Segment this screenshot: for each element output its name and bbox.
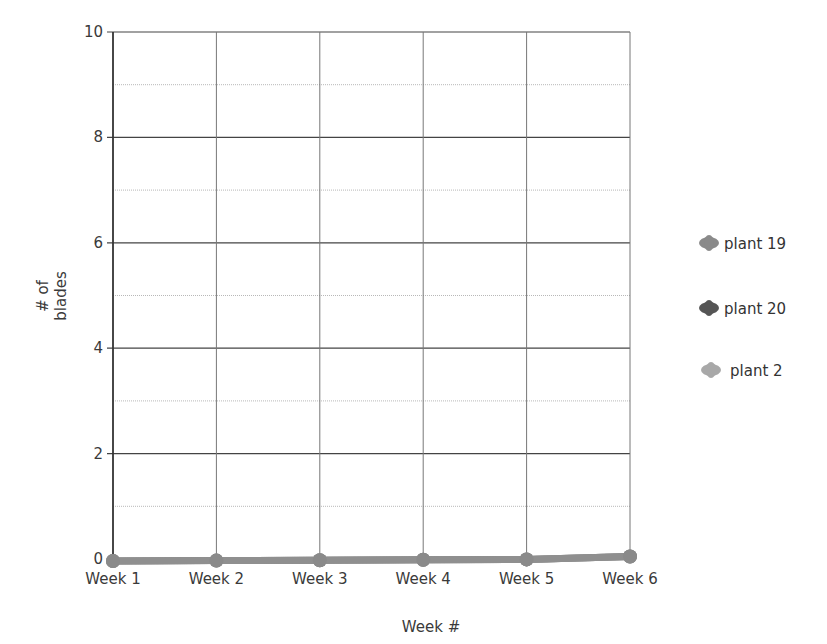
line-chart: 0246810 Week 1Week 2Week 3Week 4Week 5We… (0, 0, 827, 644)
x-tick-label: Week 4 (395, 570, 450, 588)
legend-marker-icon (704, 235, 714, 251)
y-axis-ticks: 0246810 (84, 23, 103, 568)
y-tick-label: 0 (93, 550, 103, 568)
legend-label: plant 20 (724, 300, 786, 318)
data-point-marker (520, 552, 534, 566)
x-tick-label: Week 3 (292, 570, 347, 588)
data-point-marker (416, 553, 430, 567)
y-tick-label: 10 (84, 23, 103, 41)
legend-label: plant 2 (730, 362, 783, 380)
legend-label: plant 19 (724, 235, 786, 253)
legend-item: plant 19 (699, 235, 786, 253)
x-tick-label: Week 2 (189, 570, 244, 588)
x-axis-label: Week # (402, 618, 460, 636)
legend-marker-icon (704, 300, 714, 316)
series-line (113, 557, 630, 562)
y-tick-label: 8 (93, 128, 103, 146)
grid (107, 32, 630, 559)
x-axis-ticks: Week 1Week 2Week 3Week 4Week 5Week 6 (85, 570, 657, 588)
data-point-marker (106, 554, 120, 568)
x-tick-label: Week 5 (499, 570, 554, 588)
legend-item: plant 2 (701, 362, 783, 380)
y-axis-label-line-2: blades (52, 271, 70, 321)
y-axis-label-line-1: # of (34, 279, 52, 312)
data-series (106, 550, 637, 569)
x-tick-label: Week 6 (602, 570, 657, 588)
legend-item: plant 20 (699, 300, 786, 318)
data-point-marker (623, 550, 637, 564)
y-tick-label: 4 (93, 339, 103, 357)
legend: plant 19plant 20plant 2 (699, 235, 786, 380)
y-axis-label: # of blades (34, 271, 70, 321)
data-point-marker (209, 554, 223, 568)
y-tick-label: 2 (93, 445, 103, 463)
data-point-marker (313, 553, 327, 567)
y-tick-label: 6 (93, 234, 103, 252)
x-tick-label: Week 1 (85, 570, 140, 588)
legend-marker-icon (706, 362, 716, 378)
